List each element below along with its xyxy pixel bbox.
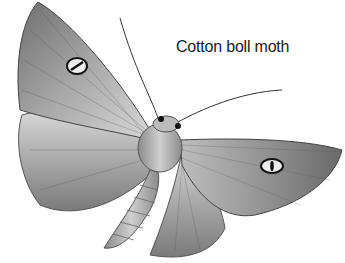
left-eye: [158, 116, 164, 122]
moth-illustration: Cotton boll moth: [0, 0, 345, 263]
head: [153, 116, 179, 132]
moth-drawing: [0, 0, 345, 263]
right-antenna: [178, 90, 282, 122]
caption-label: Cotton boll moth: [176, 38, 289, 56]
right-eye: [175, 123, 181, 129]
